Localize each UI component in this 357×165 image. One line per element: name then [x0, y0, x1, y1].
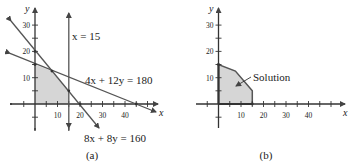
y-tick-label: 10 [206, 74, 214, 83]
y-tick-label: 20 [23, 47, 31, 56]
label-x-equals-15: x = 15 [72, 30, 101, 42]
x-tick-label: 10 [237, 111, 245, 120]
solution-label: Solution [253, 71, 291, 83]
y-axis-label-a: y [24, 3, 30, 14]
panel-a: 10 20 30 40 10 20 30 x y x = 15 4x + 12y… [10, 3, 164, 162]
caption-b: (b) [260, 149, 273, 162]
x-axis-label-b: x [342, 107, 348, 118]
y-tick-label: 20 [206, 47, 214, 56]
label-4x-12y-180: 4x + 12y = 180 [85, 74, 153, 86]
x-tick-label: 40 [121, 111, 129, 120]
y-axis-label-b: y [208, 3, 214, 14]
x-tick-label: 20 [260, 111, 268, 120]
x-tick-label: 20 [76, 111, 84, 120]
y-tick-label: 30 [206, 21, 214, 30]
x-tick-label: 10 [54, 111, 62, 120]
x-tick-label: 30 [99, 111, 107, 120]
label-8x-8y-160: 8x + 8y = 160 [84, 132, 146, 144]
x-tick-label: 40 [305, 111, 313, 120]
panel-b: 10 20 30 40 10 20 30 x y Solution (b) [196, 3, 348, 162]
vertex-point [251, 103, 254, 106]
caption-a: (a) [86, 149, 99, 162]
x-tick-label: 30 [282, 111, 290, 120]
y-tick-label: 30 [23, 21, 31, 30]
figure: 10 20 30 40 10 20 30 x y x = 15 4x + 12y… [0, 0, 357, 165]
x-axis-label-a: x [158, 107, 164, 118]
y-tick-label: 10 [23, 74, 31, 83]
vertex-point [217, 63, 220, 66]
